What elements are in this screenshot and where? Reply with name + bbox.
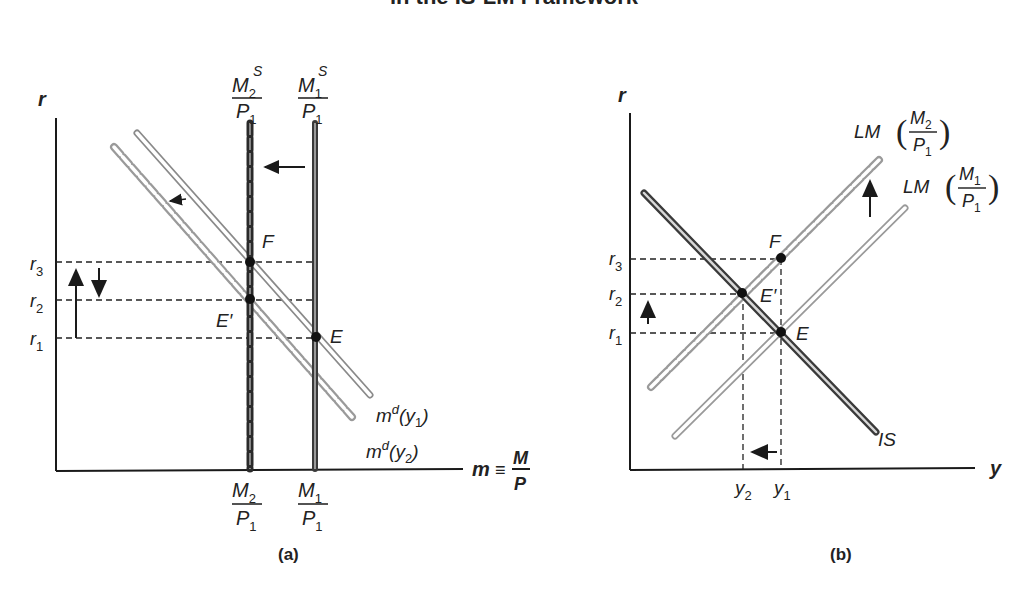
b-label-e-prime: E′ xyxy=(760,285,778,306)
lm2-label: LM ( M2 P1 ) xyxy=(854,108,950,159)
svg-text:m: m xyxy=(472,458,490,480)
y1-label: y1 xyxy=(772,477,791,503)
svg-text:r3: r3 xyxy=(30,254,43,279)
panel-b-x-label: y xyxy=(989,457,1002,479)
svg-text:P1: P1 xyxy=(913,135,932,159)
point-f xyxy=(245,257,255,267)
panel-b-r-labels: r3 r2 r1 xyxy=(609,249,622,348)
demand-label-y1: md(y1) xyxy=(376,402,428,430)
svg-text:): ) xyxy=(988,168,999,206)
lm1-curve xyxy=(675,208,905,436)
panel-a-r-labels: r3 r2 r1 xyxy=(30,254,43,354)
tick-label-m1: M1 P1 xyxy=(298,479,328,534)
svg-text:P1: P1 xyxy=(236,100,257,127)
svg-text:M2: M2 xyxy=(910,108,932,132)
panel-b: r y r3 r2 r1 xyxy=(609,84,1002,564)
svg-text:): ) xyxy=(939,113,950,151)
svg-text:S: S xyxy=(318,63,328,79)
svg-text:r3: r3 xyxy=(609,249,622,274)
svg-text:r1: r1 xyxy=(30,329,43,354)
svg-text:P: P xyxy=(514,474,527,494)
b-label-e: E xyxy=(796,323,809,344)
panel-a-x-axis xyxy=(56,469,463,471)
b-label-f: F xyxy=(769,231,782,252)
svg-text:r2: r2 xyxy=(609,284,622,309)
panel-a: r m ≡ M P r3 r2 r1 xyxy=(30,63,530,564)
tick-label-m2: M2 P1 xyxy=(232,479,262,534)
svg-text:M1: M1 xyxy=(959,164,981,188)
panel-a-caption: (a) xyxy=(278,545,299,564)
panel-b-x-axis xyxy=(630,468,975,470)
svg-text:M1: M1 xyxy=(298,479,322,506)
svg-text:r1: r1 xyxy=(609,323,622,348)
b-point-f xyxy=(776,253,786,263)
svg-text:S: S xyxy=(253,63,263,79)
b-point-e-prime xyxy=(737,288,747,298)
supply-label-m1: M1 S P1 xyxy=(298,63,328,127)
svg-text:(: ( xyxy=(945,168,956,206)
y2-label: y2 xyxy=(733,477,752,503)
supply-label-m2: M2 S P1 xyxy=(232,63,263,127)
svg-text:r2: r2 xyxy=(30,291,43,316)
svg-text:≡: ≡ xyxy=(495,460,506,480)
is-lm-figure: r m ≡ M P r3 r2 r1 xyxy=(0,0,1028,600)
panel-a-y-label: r xyxy=(38,88,47,110)
is-curve xyxy=(644,193,876,432)
is-label: IS xyxy=(878,429,896,450)
svg-text:M: M xyxy=(513,448,529,468)
lm1-label: LM ( M1 P1 ) xyxy=(903,164,999,215)
panel-b-caption: (b) xyxy=(830,545,852,564)
svg-text:(: ( xyxy=(896,113,907,151)
label-e: E xyxy=(330,326,343,347)
svg-text:P1: P1 xyxy=(302,507,323,534)
demand-label-y2: md(y2) xyxy=(366,438,418,466)
b-point-e xyxy=(776,327,786,337)
lm2-curve xyxy=(651,160,879,387)
point-e xyxy=(311,332,321,342)
label-e-prime: E′ xyxy=(216,310,234,331)
panel-a-x-label: m ≡ M P xyxy=(472,448,530,494)
label-f: F xyxy=(262,231,275,252)
svg-text:P1: P1 xyxy=(236,507,257,534)
panel-b-y-label: r xyxy=(618,84,627,106)
svg-text:LM: LM xyxy=(854,121,881,142)
svg-text:M2: M2 xyxy=(232,479,256,506)
svg-text:P1: P1 xyxy=(962,191,981,215)
svg-text:LM: LM xyxy=(903,176,930,197)
point-e-prime xyxy=(245,294,255,304)
demand-shift-arrow-icon xyxy=(170,199,186,201)
